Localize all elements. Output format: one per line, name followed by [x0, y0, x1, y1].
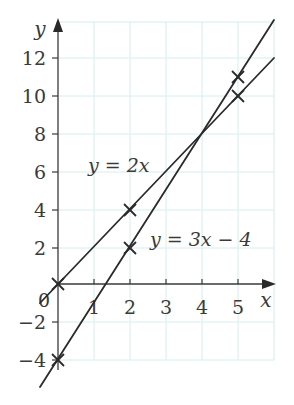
y-axis-arrow-icon [53, 18, 63, 32]
series-label-y-2x: y = 2x [87, 154, 150, 176]
y-tick-label: 4 [34, 199, 46, 221]
x-tick-label: 2 [124, 296, 136, 318]
y-tick-label: 8 [34, 123, 46, 145]
y-axis-label: y [33, 17, 46, 41]
x-tick-label: 4 [196, 296, 208, 318]
y-tick-label: 2 [34, 237, 46, 259]
x-tick-label: 3 [160, 296, 172, 318]
y-tick-label: 6 [34, 161, 46, 183]
y-tick-label: 10 [22, 85, 46, 107]
chart: 1 2 3 4 5 12 10 8 6 4 2 −2 −4 0 y x y = … [0, 0, 294, 405]
series-label-y-3x-minus-4: y = 3x − 4 [149, 228, 252, 250]
ticks [52, 58, 238, 360]
x-tick-label: 1 [88, 296, 100, 318]
y-tick-label: −2 [18, 311, 46, 333]
x-tick-label: 5 [232, 296, 244, 318]
y-tick-label: −4 [18, 349, 46, 371]
x-axis-label: x [260, 288, 271, 312]
y-tick-label: 12 [22, 47, 46, 69]
